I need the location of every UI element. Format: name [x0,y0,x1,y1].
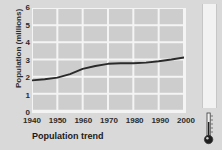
y-axis-tick-labels: 6543210 [16,0,30,125]
right-tool-strip [196,0,222,150]
y-tick-label: 4 [16,39,30,47]
y-tick-label: 3 [16,57,30,65]
y-tick-label: 1 [16,92,30,100]
x-axis-tick-labels: 1940195019601970198019902000 [32,116,186,128]
thermometer-icon[interactable] [202,112,215,146]
data-line-population [32,8,184,111]
chart-screenshot: Population (millions) 6543210 1940195019… [0,0,222,150]
plot-area [32,8,186,113]
y-tick-label: 2 [16,74,30,82]
x-axis-label: Population trend [32,131,104,141]
y-tick-label: 5 [16,22,30,30]
vertical-scrollbar[interactable] [202,4,217,108]
population-trend-chart: Population (millions) 6543210 1940195019… [0,0,196,150]
y-tick-label: 6 [16,4,30,12]
